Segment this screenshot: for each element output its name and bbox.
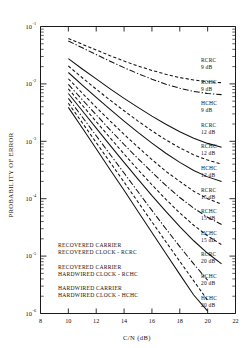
- y-tick-label: 10-4: [26, 193, 37, 202]
- curve-label-rcrc-15dB: RCRC15 dB: [201, 187, 217, 200]
- curve-label-hchc-15dB: HCHC15 dB: [201, 230, 217, 243]
- figure-container: 810121416182022 10-110-210-310-410-510-6…: [0, 0, 252, 348]
- curve-label-rchc-15dB: RCHC15 dB: [201, 208, 217, 221]
- svg-text:-4: -4: [33, 193, 37, 198]
- error-probability-chart: 810121416182022 10-110-210-310-410-510-6…: [0, 0, 252, 348]
- y-tick-labels: 10-110-210-310-410-510-6: [26, 21, 37, 317]
- svg-text:15 dB: 15 dB: [201, 237, 215, 243]
- svg-text:9 dB: 9 dB: [201, 107, 212, 113]
- svg-text:RCRC: RCRC: [201, 187, 217, 193]
- curve-label-hchc-20dB: HCHC20 dB: [201, 295, 217, 308]
- svg-text:HCHC: HCHC: [201, 165, 217, 171]
- svg-text:RECOVERED CARRIER: RECOVERED CARRIER: [58, 264, 121, 270]
- svg-text:10: 10: [26, 138, 32, 145]
- svg-text:RECOVERED CLOCK - RCRC: RECOVERED CLOCK - RCRC: [58, 249, 137, 255]
- svg-text:-1: -1: [33, 21, 37, 26]
- svg-text:10: 10: [26, 252, 32, 259]
- x-tick-labels: 810121416182022: [39, 317, 239, 324]
- svg-text:15 dB: 15 dB: [201, 215, 215, 221]
- svg-text:10: 10: [26, 23, 32, 30]
- svg-text:20 dB: 20 dB: [201, 258, 215, 264]
- svg-text:-3: -3: [33, 136, 37, 141]
- svg-text:HARDWIRED CLOCK - RCHC: HARDWIRED CLOCK - RCHC: [58, 271, 138, 277]
- curve-rcrc-15dB: [68, 84, 221, 224]
- curve-label-rcrc-9dB: RCRC9 dB: [201, 57, 217, 70]
- x-tick-label: 22: [232, 317, 238, 324]
- y-tick-label: 10-6: [26, 308, 37, 317]
- y-tick-label: 10-3: [26, 136, 37, 145]
- curve-hchc-20dB: [68, 107, 207, 311]
- x-tick-label: 12: [93, 317, 99, 324]
- curve-label-hchc-9dB: HCHC9 dB: [201, 100, 217, 113]
- svg-text:RCHC: RCHC: [201, 143, 217, 149]
- y-axis-title: PROBABILITY OF ERROR: [7, 132, 14, 217]
- svg-text:20 dB: 20 dB: [201, 280, 215, 286]
- curve-label-rcrc-12dB: RCRC12 dB: [201, 122, 217, 135]
- x-tick-label: 10: [65, 317, 71, 324]
- legend-hchc: HARDWIRED CARRIERHARDWIRED CLOCK - HCHC: [58, 285, 138, 298]
- x-tick-label: 8: [39, 317, 42, 324]
- svg-text:HARDWIRED CLOCK - HCHC: HARDWIRED CLOCK - HCHC: [58, 292, 138, 298]
- x-tick-label: 14: [121, 317, 127, 324]
- x-tick-label: 18: [177, 317, 183, 324]
- svg-text:HARDWIRED CARRIER: HARDWIRED CARRIER: [58, 285, 122, 291]
- legend-rcrc: RECOVERED CARRIERRECOVERED CLOCK - RCRC: [58, 242, 137, 255]
- svg-text:HCHC: HCHC: [201, 100, 217, 106]
- svg-text:9 dB: 9 dB: [201, 64, 212, 70]
- curve-label-hchc-12dB: HCHC12 dB: [201, 165, 217, 178]
- curve-rchc-12dB: [68, 73, 221, 182]
- curve-labels: RCRC9 dBRCHC9 dBHCHC9 dBRCRC12 dBRCHC12 …: [201, 57, 217, 308]
- y-tick-label: 10-5: [26, 251, 37, 260]
- svg-text:12 dB: 12 dB: [201, 129, 215, 135]
- x-tick-label: 16: [149, 317, 155, 324]
- svg-text:12 dB: 12 dB: [201, 150, 215, 156]
- y-tick-label: 10-1: [26, 21, 37, 30]
- curve-label-rchc-9dB: RCHC9 dB: [201, 79, 217, 92]
- svg-text:15 dB: 15 dB: [201, 194, 215, 200]
- y-tick-label: 10-2: [26, 78, 37, 87]
- svg-text:HCHC: HCHC: [201, 295, 217, 301]
- x-axis-title: C/N (dB): [123, 334, 151, 342]
- svg-text:RCRC: RCRC: [201, 251, 217, 257]
- x-tick-label: 20: [205, 317, 211, 324]
- svg-text:10: 10: [26, 195, 32, 202]
- svg-text:RCRC: RCRC: [201, 57, 217, 63]
- svg-text:9 dB: 9 dB: [201, 86, 212, 92]
- legend-block: RECOVERED CARRIERRECOVERED CLOCK - RCRCR…: [58, 242, 138, 298]
- svg-text:RCHC: RCHC: [201, 273, 217, 279]
- svg-text:12 dB: 12 dB: [201, 172, 215, 178]
- legend-rchc: RECOVERED CARRIERHARDWIRED CLOCK - RCHC: [58, 264, 138, 277]
- svg-text:10: 10: [26, 310, 32, 317]
- curve-label-rchc-20dB: RCHC20 dB: [201, 273, 217, 286]
- svg-text:10: 10: [26, 80, 32, 87]
- svg-text:20 dB: 20 dB: [201, 302, 215, 308]
- curve-label-rcrc-20dB: RCRC20 dB: [201, 251, 217, 264]
- curve-hchc-15dB: [68, 94, 221, 264]
- svg-text:-5: -5: [33, 251, 37, 256]
- svg-text:-6: -6: [33, 308, 37, 313]
- svg-text:RCHC: RCHC: [201, 79, 217, 85]
- svg-text:RECOVERED CARRIER: RECOVERED CARRIER: [58, 242, 121, 248]
- svg-text:-2: -2: [33, 78, 37, 83]
- svg-text:HCHC: HCHC: [201, 230, 217, 236]
- svg-text:RCHC: RCHC: [201, 208, 217, 214]
- svg-text:RCRC: RCRC: [201, 122, 217, 128]
- curve-label-rchc-12dB: RCHC12 dB: [201, 143, 217, 156]
